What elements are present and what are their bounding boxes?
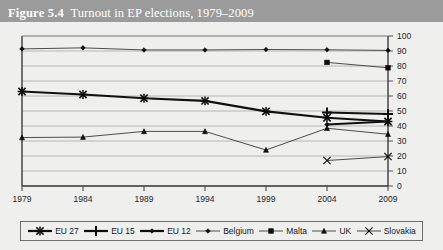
marker-diamond	[20, 47, 25, 52]
series-line	[327, 157, 388, 161]
chart-area: 0102030405060708090100197919841989199419…	[5, 26, 438, 212]
legend-marker-plus-icon	[83, 225, 109, 237]
figure-caption: Turnout in EP elections, 1979–2009	[70, 6, 253, 20]
marker-diamond	[142, 48, 147, 53]
legend-label: Slovakia	[384, 226, 416, 236]
figure-title-bar: Figure 5.4 Turnout in EP elections, 1979…	[0, 0, 443, 22]
marker-diamond	[150, 229, 155, 234]
figure-title-text: Figure 5.4 Turnout in EP elections, 1979…	[8, 3, 254, 21]
series-eu-27	[18, 87, 393, 126]
legend-item-slovakia[interactable]: Slovakia	[356, 225, 416, 237]
legend-marker-diamond-icon	[195, 225, 221, 237]
legend-label: Belgium	[223, 226, 254, 236]
marker-diamond	[81, 46, 86, 51]
legend-marker-triangle-icon	[311, 225, 337, 237]
legend-item-belgium[interactable]: Belgium	[195, 225, 254, 237]
y-tick-label: 70	[397, 76, 407, 86]
legend-label: EU 15	[111, 226, 135, 236]
series-line	[327, 122, 388, 125]
marker-square	[269, 229, 274, 234]
legend-marker-square-icon	[258, 225, 284, 237]
marker-square	[325, 60, 330, 65]
x-tick-label: 1989	[135, 194, 154, 204]
series-malta	[325, 60, 391, 70]
legend-marker-asterisk-icon	[27, 225, 53, 237]
legend-marker-diamond-icon	[139, 225, 165, 237]
legend-marker-x-icon	[356, 225, 382, 237]
y-tick-label: 100	[397, 31, 411, 41]
legend-label: UK	[339, 226, 351, 236]
legend-label: EU 27	[55, 226, 79, 236]
y-tick-label: 90	[397, 46, 407, 56]
legend-label: EU 12	[167, 226, 191, 236]
y-tick-label: 20	[397, 151, 407, 161]
line-chart: 0102030405060708090100197919841989199419…	[5, 26, 438, 212]
series-line	[327, 62, 388, 67]
y-tick-label: 50	[397, 106, 407, 116]
marker-diamond	[203, 48, 208, 53]
legend-item-malta[interactable]: Malta	[258, 225, 307, 237]
legend-item-eu-15[interactable]: EU 15	[83, 225, 135, 237]
marker-square	[386, 66, 391, 71]
y-tick-label: 0	[397, 181, 402, 191]
x-tick-label: 1994	[196, 194, 215, 204]
marker-diamond	[206, 229, 211, 234]
y-tick-label: 60	[397, 91, 407, 101]
figure-number: Figure 5.4	[8, 6, 64, 20]
x-tick-label: 1984	[74, 194, 93, 204]
x-tick-label: 1999	[257, 194, 276, 204]
legend-item-uk[interactable]: UK	[311, 225, 351, 237]
figure-container: Figure 5.4 Turnout in EP elections, 1979…	[0, 0, 443, 250]
series-line	[327, 113, 388, 115]
x-tick-label: 2004	[318, 194, 337, 204]
x-tick-label: 2009	[379, 194, 398, 204]
chart-legend: EU 27EU 15EU 12BelgiumMaltaUKSlovakia	[20, 221, 423, 241]
series-uk	[20, 126, 391, 153]
y-tick-label: 40	[397, 121, 407, 131]
legend-item-eu-27[interactable]: EU 27	[27, 225, 79, 237]
series-belgium	[20, 46, 391, 53]
marker-diamond	[325, 48, 330, 53]
x-tick-label: 1979	[13, 194, 32, 204]
y-tick-label: 30	[397, 136, 407, 146]
marker-diamond	[386, 48, 391, 53]
series-slovakia	[323, 153, 391, 164]
y-tick-label: 10	[397, 166, 407, 176]
y-tick-label: 80	[397, 61, 407, 71]
legend-item-eu-12[interactable]: EU 12	[139, 225, 191, 237]
legend-label: Malta	[286, 226, 307, 236]
